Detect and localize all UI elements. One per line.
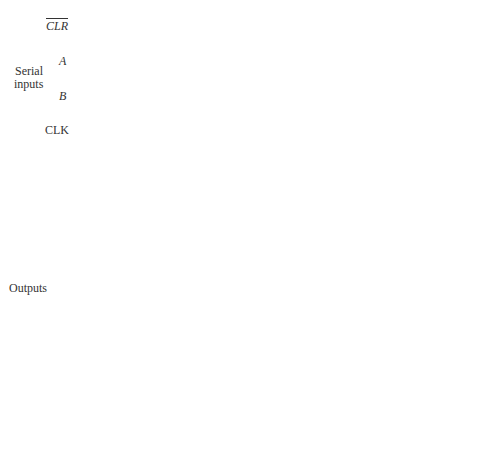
- clk-label: CLK: [45, 123, 69, 138]
- timing-diagram: [0, 0, 487, 465]
- serial-b-label: B: [59, 89, 66, 104]
- clr-label: CLR: [46, 19, 68, 34]
- outputs-label: Outputs: [9, 281, 47, 296]
- serial-inputs-label-2: inputs: [14, 77, 43, 92]
- serial-a-label: A: [59, 54, 66, 69]
